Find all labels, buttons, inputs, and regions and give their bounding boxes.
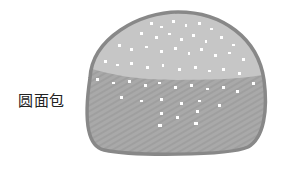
- bread-bun-illustration: [0, 0, 281, 171]
